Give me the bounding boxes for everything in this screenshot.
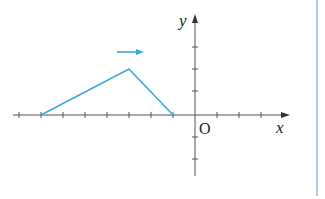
x-axis <box>13 112 290 118</box>
x-axis-label: x <box>275 118 284 137</box>
origin-label: O <box>199 120 211 137</box>
coordinate-diagram: y O x <box>0 0 325 199</box>
graph-polyline <box>41 69 173 115</box>
y-axis <box>192 14 198 176</box>
y-axis-label: y <box>177 11 187 30</box>
y-axis-arrow-icon <box>192 14 198 23</box>
translation-arrow-icon <box>117 49 144 55</box>
